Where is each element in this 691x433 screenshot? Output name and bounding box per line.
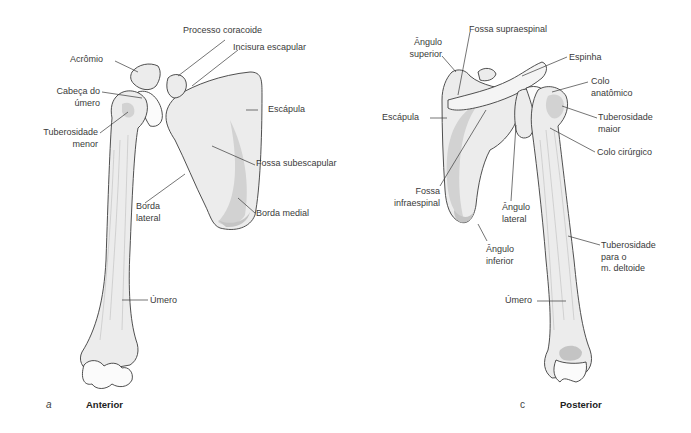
label-tub-maior-line2: maior [598, 124, 621, 134]
label-fossa-subescapular: Fossa subescapular [256, 158, 337, 170]
label-fossa-infraespinal: Fossa infraespinal [380, 186, 440, 209]
label-fossa-supraespinal: Fossa supraespinal [469, 24, 547, 36]
label-ang-inf-line1: Ângulo [486, 244, 514, 254]
anterior-view-panel: Processo coracoide Incisura escapular Ac… [0, 0, 350, 433]
label-espinha: Espinha [569, 52, 602, 64]
label-angulo-lateral: Ângulo lateral [502, 202, 530, 225]
label-tuberosidade-menor: Tuberosidade menor [30, 127, 98, 150]
label-angulo-superior: Ângulo superior [390, 37, 442, 60]
label-colo-anatomico: Colo anatômico [591, 76, 633, 99]
label-tub-delt-line2: para o [601, 252, 627, 262]
label-processo-coracoide: Processo coracoide [183, 25, 262, 37]
label-acromio: Acrômio [70, 54, 103, 66]
label-escapula-a: Escápula [268, 104, 305, 116]
label-incisura-escapular: Incisura escapular [233, 42, 306, 54]
humerus-posterior [531, 87, 591, 378]
label-ang-sup-line1: Ângulo [414, 37, 442, 47]
label-cabeca-do-umero: Cabeça do úmero [46, 86, 100, 109]
posterior-view-panel: Fossa supraespinal Ângulo superior Espin… [350, 0, 691, 433]
label-borda-lateral-line1: Borda [136, 201, 160, 211]
label-fossa-infra-line2: infraespinal [394, 198, 440, 208]
label-tub-delt-line3: m. deltoide [601, 263, 645, 273]
label-tub-delt-line1: Tuberosidade [601, 240, 656, 250]
label-colo-cirurgico: Colo cirúrgico [597, 147, 652, 159]
label-tuberosidade-deltoide: Tuberosidade para o m. deltoide [601, 240, 656, 275]
label-cabeca-line2: úmero [74, 98, 100, 108]
label-umero-a: Úmero [150, 295, 177, 307]
label-angulo-inferior: Ângulo inferior [486, 244, 514, 267]
label-tub-menor-line1: Tuberosidade [43, 127, 98, 137]
acromion [131, 64, 160, 90]
label-umero-c: Úmero [505, 295, 532, 307]
label-borda-lateral: Borda lateral [136, 201, 161, 224]
label-borda-medial: Borda medial [256, 208, 309, 220]
label-cabeca-line1: Cabeça do [56, 86, 100, 96]
label-escapula-c: Escápula [382, 112, 419, 124]
label-ang-inf-line2: inferior [486, 256, 514, 266]
label-colo-anat-line2: anatômico [591, 88, 633, 98]
label-tub-menor-line2: menor [72, 139, 98, 149]
label-colo-anat-line1: Colo [591, 76, 610, 86]
label-ang-lat-line2: lateral [502, 214, 527, 224]
label-borda-lateral-line2: lateral [136, 213, 161, 223]
panel-letter-c: c [520, 399, 525, 410]
view-label-posterior: Posterior [560, 399, 602, 410]
panel-letter-a: a [46, 399, 52, 410]
label-tuberosidade-maior: Tuberosidade maior [598, 112, 653, 135]
view-label-anterior: Anterior [86, 399, 123, 410]
label-fossa-infra-line1: Fossa [415, 186, 440, 196]
label-ang-lat-line1: Ângulo [502, 202, 530, 212]
label-ang-sup-line2: superior [409, 49, 442, 59]
label-tub-maior-line1: Tuberosidade [598, 112, 653, 122]
